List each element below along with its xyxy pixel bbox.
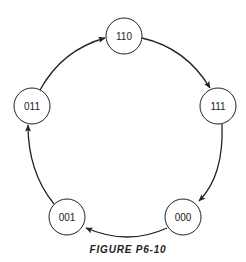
- state-label: 011: [24, 101, 40, 112]
- state-label: 001: [59, 212, 76, 223]
- state-110: 110: [106, 18, 142, 54]
- state-000: 000: [165, 199, 201, 235]
- state-label: 111: [210, 101, 226, 112]
- figure-caption: FIGURE P6-10: [90, 244, 167, 255]
- state-111: 111: [200, 88, 236, 124]
- transition-111-to-000: [199, 124, 222, 201]
- transition-000-to-001: [86, 228, 167, 237]
- state-001: 001: [49, 199, 85, 235]
- transition-001-to-011: [28, 125, 54, 204]
- transition-110-to-111: [142, 38, 210, 88]
- state-label: 000: [175, 212, 192, 223]
- state-011: 011: [14, 88, 50, 124]
- state-diagram: 110 111 000 001 011 FIGURE P6-10: [0, 0, 246, 262]
- state-label: 110: [116, 31, 132, 42]
- transition-011-to-110: [40, 38, 105, 90]
